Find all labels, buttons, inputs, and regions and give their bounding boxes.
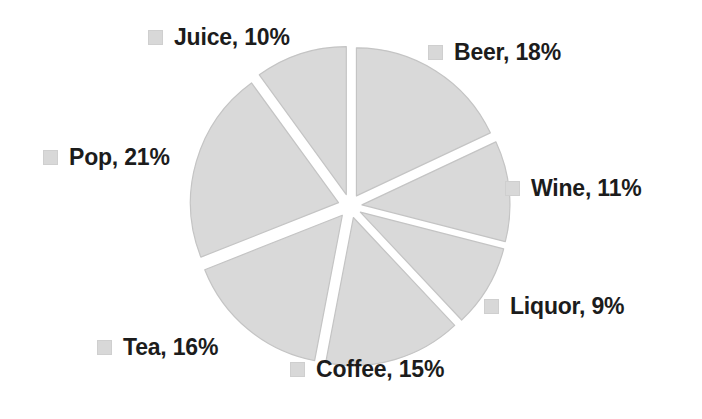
pie-label-juice: Juice, 10% [148, 26, 290, 49]
pie-label-tea: Tea, 16% [97, 336, 218, 359]
legend-swatch-icon [505, 181, 520, 196]
pie-label-tea-text: Tea, 16% [123, 336, 218, 359]
legend-swatch-icon [484, 299, 499, 314]
pie-slices-group [190, 47, 509, 366]
pie-label-coffee-text: Coffee, 15% [316, 358, 444, 381]
pie-label-wine: Wine, 11% [505, 177, 641, 200]
legend-swatch-icon [290, 362, 305, 377]
legend-swatch-icon [97, 340, 112, 355]
pie-label-beer-text: Beer, 18% [454, 41, 561, 64]
pie-label-beer: Beer, 18% [428, 41, 561, 64]
pie-label-liquor-text: Liquor, 9% [510, 295, 624, 318]
pie-label-liquor: Liquor, 9% [484, 295, 624, 318]
legend-swatch-icon [428, 45, 443, 60]
pie-label-wine-text: Wine, 11% [531, 177, 641, 200]
pie-chart-figure: Juice, 10% Beer, 18% Wine, 11% Liquor, 9… [0, 0, 702, 419]
pie-label-pop: Pop, 21% [43, 146, 170, 169]
pie-label-pop-text: Pop, 21% [69, 146, 170, 169]
pie-label-coffee: Coffee, 15% [290, 358, 444, 381]
legend-swatch-icon [148, 30, 163, 45]
pie-label-juice-text: Juice, 10% [174, 26, 290, 49]
legend-swatch-icon [43, 150, 58, 165]
